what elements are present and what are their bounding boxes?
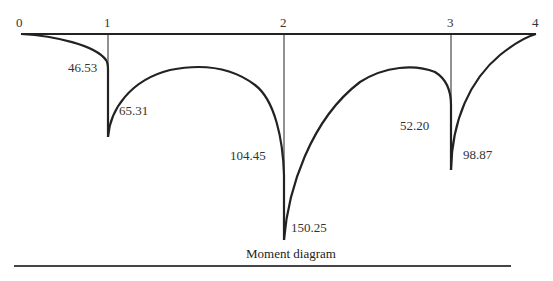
node-label-1: 1	[104, 16, 111, 29]
node-label-2: 2	[280, 16, 287, 29]
moment-value-3-right: 98.87	[463, 148, 492, 161]
moment-diagram-canvas	[0, 0, 553, 281]
node-label-0: 0	[16, 16, 23, 29]
moment-value-2-left: 104.45	[230, 149, 266, 162]
diagram-caption: Moment diagram	[246, 246, 336, 262]
node-label-3: 3	[447, 16, 454, 29]
moment-value-3-left: 52.20	[400, 119, 429, 132]
moment-value-2-right: 150.25	[291, 221, 327, 234]
node-label-4: 4	[532, 16, 539, 29]
moment-value-1-left: 46.53	[68, 61, 97, 74]
moment-curve-span-0-1	[21, 34, 108, 137]
bottom-rule	[14, 265, 511, 267]
moment-value-1-right: 65.31	[119, 104, 148, 117]
moment-curve-span-2-3	[284, 67, 451, 240]
